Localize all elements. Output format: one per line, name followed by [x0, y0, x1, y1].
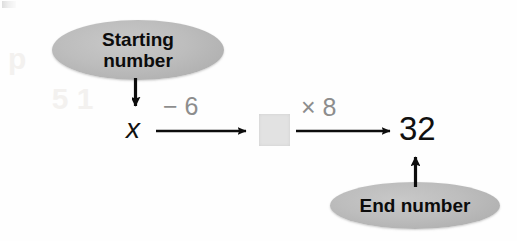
blank-answer-box[interactable]: [259, 114, 290, 146]
figure-canvas: p o h 5 1 Startingnumber End number blan…: [0, 0, 517, 241]
end-value-32: 32: [399, 110, 436, 148]
operation-label-multiply-8: × 8: [301, 93, 336, 122]
start-value-x: x: [126, 113, 140, 145]
operation-label-subtract-6: − 6: [163, 92, 198, 121]
